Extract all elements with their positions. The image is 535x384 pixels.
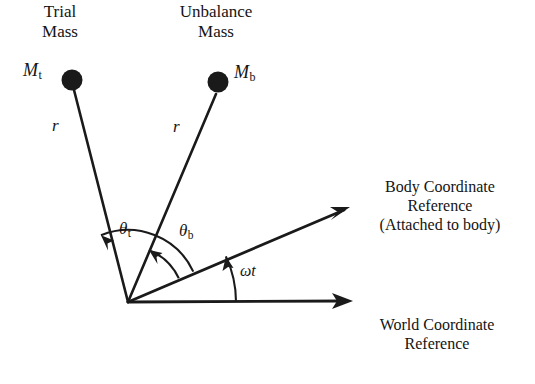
world-coordinate-caption-line1: World Coordinate [380, 316, 495, 335]
unbalance-mass-title-line2: Mass [180, 22, 253, 42]
trial-mass-symbol-subscript: t [38, 68, 42, 82]
body-coordinate-caption-line3: (Attached to body) [380, 216, 501, 235]
body-coordinate-caption: Body Coordinate Reference (Attached to b… [380, 178, 501, 235]
unbalance-mass-marker-icon [208, 72, 229, 93]
theta-unbalance-label: θb [179, 221, 194, 243]
theta-unbalance-subscript: b [187, 229, 193, 241]
theta-trial-label: θt [119, 219, 131, 241]
unbalance-mass-symbol: Mb [234, 62, 255, 85]
unbalance-mass-symbol-base: M [234, 62, 249, 82]
unbalance-mass-title: Unbalance Mass [180, 2, 253, 42]
world-coordinate-caption-line2: Reference [380, 335, 495, 354]
body-coordinate-caption-line2: Reference [380, 197, 501, 216]
trial-mass-symbol: Mt [23, 60, 42, 83]
trial-mass-radius-line [74, 90, 128, 302]
body-coordinate-caption-line1: Body Coordinate [380, 178, 501, 197]
unbalance-mass-title-line1: Unbalance [180, 2, 253, 22]
trial-mass-symbol-base: M [23, 60, 38, 80]
omega-t-label: ωt [240, 262, 256, 281]
figure-canvas: Trial Mass Unbalance Mass Mt Mb r r θt θ… [0, 0, 535, 384]
world-coordinate-caption: World Coordinate Reference [380, 316, 495, 354]
trial-mass-title: Trial Mass [42, 2, 78, 42]
unbalance-mass-symbol-subscript: b [249, 70, 255, 84]
trial-mass-marker-icon [62, 70, 83, 91]
trial-radius-label: r [52, 116, 59, 136]
trial-mass-title-line1: Trial [42, 2, 78, 22]
unbalance-radius-label: r [173, 117, 180, 137]
theta-trial-subscript: t [127, 227, 131, 239]
trial-mass-title-line2: Mass [42, 22, 78, 42]
